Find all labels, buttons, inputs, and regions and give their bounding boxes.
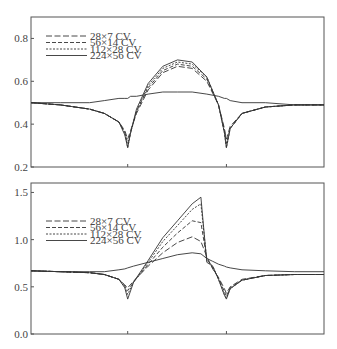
y-tick-label: 0.5 (14, 281, 28, 293)
series-line (31, 62, 324, 148)
series-line (31, 253, 324, 272)
series-line (31, 197, 324, 299)
series-line (31, 237, 324, 294)
series-line (31, 221, 324, 296)
chart-figure: 0.20.40.60.828×7 CV56×14 CV112×28 CV224×… (0, 0, 337, 349)
panel-bottom: 0.00.51.01.528×7 CV56×14 CV112×28 CV224×… (14, 183, 324, 340)
series-line (31, 92, 324, 105)
y-tick-label: 1.5 (14, 186, 28, 198)
y-tick-label: 0.0 (14, 328, 28, 340)
legend: 28×7 CV56×14 CV112×28 CV224×56 CV (46, 215, 142, 247)
y-tick-label: 0.4 (14, 118, 28, 130)
series-line (31, 204, 324, 298)
y-tick-label: 0.6 (14, 75, 28, 87)
legend-label: 224×56 CV (90, 234, 142, 246)
y-tick-label: 0.2 (14, 161, 28, 173)
y-tick-label: 0.8 (14, 32, 28, 44)
legend: 28×7 CV56×14 CV112×28 CV224×56 CV (46, 30, 142, 62)
plot-frame (31, 183, 324, 334)
legend-label: 224×56 CV (90, 49, 142, 61)
y-tick-label: 1.0 (14, 234, 28, 246)
panel-top: 0.20.40.60.828×7 CV56×14 CV112×28 CV224×… (14, 17, 324, 173)
